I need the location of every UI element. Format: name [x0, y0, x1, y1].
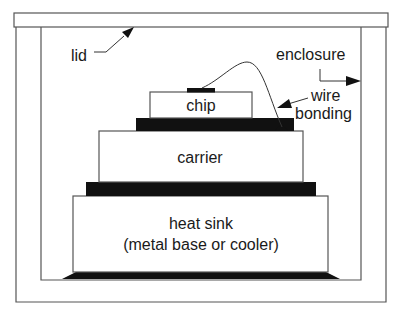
lid-label: lid [71, 47, 87, 64]
heat-sink-label-line1: heat sink [169, 215, 234, 232]
heat-sink-label-line2: (metal base or cooler) [123, 236, 279, 253]
lid-arrow [94, 27, 134, 52]
chip-bond-pad [187, 88, 215, 93]
wire-bonding-label-line1: wire [310, 87, 340, 104]
enclosure-label: enclosure [276, 46, 345, 63]
wire-bonding-label-line2: bonding [295, 105, 352, 122]
chip-label: chip [186, 97, 215, 114]
heat-sink [73, 196, 328, 272]
enclosure-arrow [320, 69, 361, 86]
base-attach-layer [62, 272, 340, 279]
lid [14, 13, 388, 27]
package-cross-section-diagram: lid enclosure wire bonding chip carrier … [0, 0, 402, 323]
carrier-attach-layer [86, 182, 316, 196]
chip-attach-layer [136, 118, 294, 131]
carrier-label: carrier [177, 149, 223, 166]
